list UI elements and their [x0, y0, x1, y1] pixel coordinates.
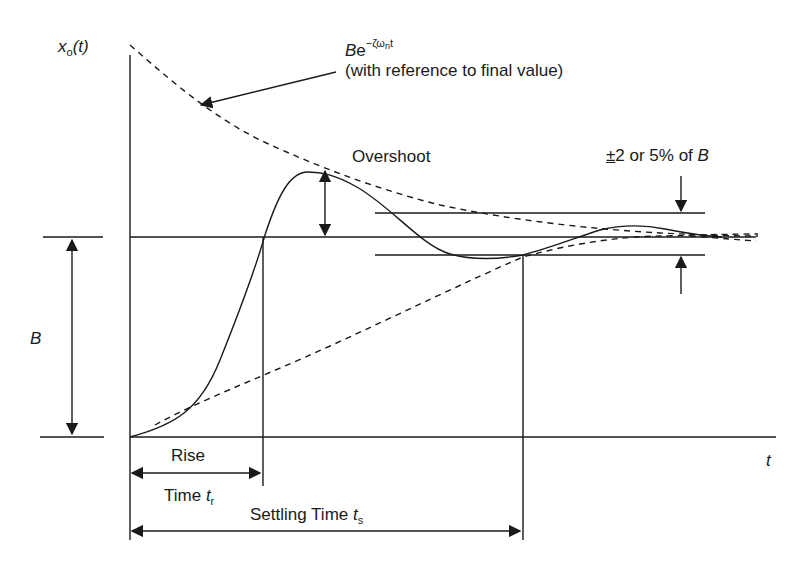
envelope-note: (with reference to final value): [345, 62, 563, 79]
y-axis-label-main: x: [58, 37, 67, 56]
envelope-formula: Be−ζωnt: [345, 38, 393, 59]
settling-time-label: Settling Time ts: [250, 506, 363, 526]
envelope-pointer-arrow: [201, 72, 336, 105]
envelope-base: B: [345, 41, 356, 60]
tolerance-pm: ±: [606, 146, 615, 165]
tolerance-var: B: [698, 146, 709, 165]
envelope-e: e: [356, 41, 365, 60]
lower-envelope-curve: [155, 234, 758, 425]
rise-label-line1: Rise: [171, 447, 205, 464]
envelope-power-text: −ζω: [366, 37, 385, 49]
envelope-power-t: t: [390, 37, 393, 49]
response-curve: [130, 172, 722, 437]
rise-label-line2: Time tr: [164, 487, 214, 507]
rise-label-sub: r: [211, 495, 215, 507]
rise-label-text: Time: [164, 486, 206, 505]
envelope-power: −ζωnt: [366, 37, 393, 49]
tolerance-text: 2 or 5% of: [615, 146, 697, 165]
y-axis-label: xo(t): [58, 38, 89, 58]
tolerance-label: ±2 or 5% of B: [606, 147, 709, 164]
overshoot-label: Overshoot: [352, 148, 430, 165]
settling-label-sub: s: [358, 514, 364, 526]
step-response-diagram: [0, 0, 808, 569]
y-axis-label-suffix: (t): [73, 37, 89, 56]
settling-label-text: Settling Time: [250, 505, 353, 524]
final-value-b-label: B: [30, 330, 41, 347]
x-axis-label: t: [766, 452, 771, 469]
